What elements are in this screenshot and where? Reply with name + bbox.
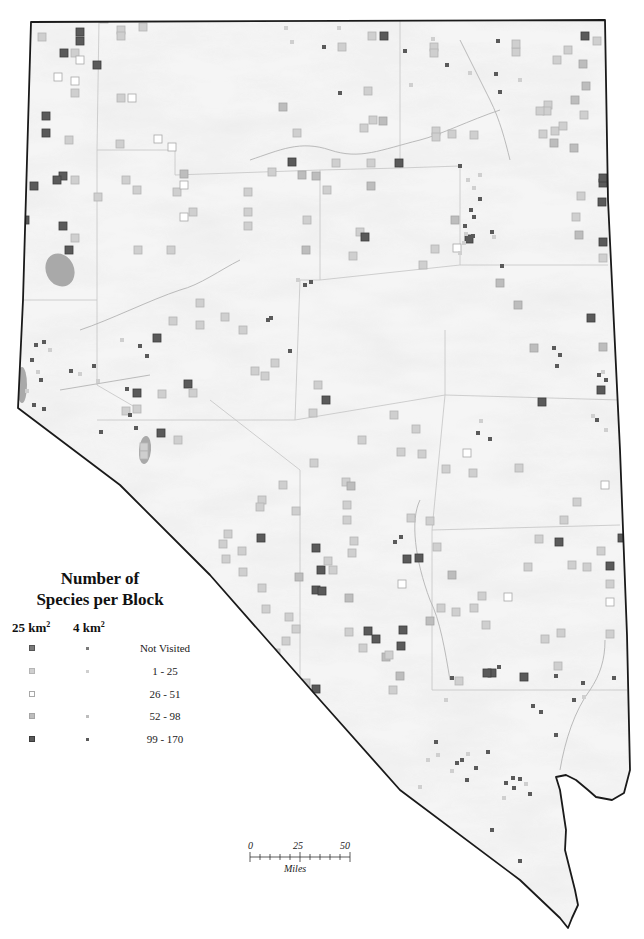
survey-block-25km	[332, 159, 340, 167]
survey-block-25km	[310, 459, 318, 467]
survey-block-25km	[116, 140, 124, 148]
legend-swatch-4km	[86, 647, 89, 650]
survey-block-25km	[133, 405, 141, 413]
survey-block-4km	[468, 71, 472, 75]
survey-block-4km	[30, 358, 34, 362]
survey-block-25km	[303, 216, 311, 224]
survey-block-25km	[258, 584, 266, 592]
survey-block-4km	[36, 370, 40, 374]
survey-block-25km	[117, 32, 125, 40]
survey-block-25km	[196, 321, 204, 329]
survey-block-4km	[322, 45, 326, 49]
survey-block-25km	[559, 122, 567, 130]
survey-block-4km	[572, 698, 576, 702]
legend-swatch-25km	[29, 645, 35, 651]
survey-block-4km	[444, 698, 448, 702]
survey-block-4km	[120, 338, 124, 342]
survey-block-25km	[426, 617, 434, 625]
survey-block-4km	[284, 26, 288, 30]
survey-block-4km	[266, 318, 270, 322]
survey-block-4km	[436, 753, 440, 757]
survey-block-25km	[575, 231, 583, 239]
survey-block-4km	[539, 710, 543, 714]
survey-block-4km	[431, 37, 435, 41]
survey-block-25km	[470, 604, 478, 612]
survey-block-4km	[488, 437, 492, 441]
survey-block-4km	[558, 353, 562, 357]
survey-block-25km	[222, 555, 230, 563]
survey-block-25km	[348, 549, 356, 557]
survey-block-25km	[134, 246, 142, 254]
survey-block-25km	[154, 135, 162, 143]
survey-block-25km	[469, 469, 477, 477]
survey-block-4km	[474, 766, 478, 770]
survey-block-25km	[298, 171, 306, 179]
survey-block-25km	[599, 238, 607, 246]
survey-block-25km	[530, 344, 538, 352]
survey-block-25km	[577, 192, 585, 200]
survey-block-4km	[597, 373, 601, 377]
survey-block-4km	[458, 164, 462, 168]
legend-title-line2: Species per Block	[0, 589, 200, 610]
survey-block-25km	[555, 538, 563, 546]
survey-block-25km	[415, 554, 423, 562]
survey-block-4km	[450, 769, 454, 773]
survey-block-4km	[478, 197, 482, 201]
survey-block-25km	[65, 136, 73, 144]
survey-block-25km	[174, 436, 182, 444]
legend-title: Number of Species per Block	[0, 568, 200, 610]
survey-block-25km	[140, 443, 148, 451]
survey-block-25km	[257, 534, 265, 542]
survey-block-25km	[76, 37, 84, 45]
survey-block-4km	[138, 344, 142, 348]
legend-label: 1 - 25	[110, 665, 220, 677]
survey-block-25km	[448, 571, 456, 579]
survey-block-25km	[267, 689, 275, 697]
survey-block-25km	[599, 254, 607, 262]
survey-block-4km	[476, 431, 480, 435]
survey-block-4km	[524, 782, 528, 786]
survey-block-25km	[364, 627, 372, 635]
survey-block-25km	[593, 37, 601, 45]
survey-block-4km	[465, 778, 469, 782]
survey-block-25km	[167, 246, 175, 254]
survey-block-4km	[531, 704, 535, 708]
nevada-map	[0, 0, 644, 939]
survey-block-25km	[368, 32, 376, 40]
survey-block-4km	[554, 733, 558, 737]
survey-block-4km	[418, 785, 422, 789]
survey-block-25km	[219, 540, 227, 548]
survey-block-4km	[466, 752, 470, 756]
survey-block-25km	[367, 182, 375, 190]
survey-block-4km	[463, 224, 467, 228]
survey-block-4km	[34, 343, 38, 347]
scale-label-50: 50	[340, 840, 350, 851]
survey-block-25km	[322, 396, 330, 404]
survey-block-25km	[288, 158, 296, 166]
survey-block-25km	[180, 181, 188, 189]
survey-block-25km	[442, 465, 450, 473]
survey-block-4km	[528, 792, 532, 796]
survey-block-25km	[292, 507, 300, 515]
survey-block-25km	[318, 587, 326, 595]
survey-block-4km	[134, 426, 138, 430]
survey-block-4km	[32, 403, 36, 407]
survey-block-4km	[25, 389, 29, 393]
survey-block-4km	[450, 676, 454, 680]
legend-swatch-4km	[86, 670, 89, 673]
survey-block-25km	[117, 94, 125, 102]
survey-block-25km	[292, 625, 300, 633]
survey-block-25km	[606, 598, 614, 606]
survey-block-25km	[419, 261, 427, 269]
survey-block-25km	[261, 372, 269, 380]
survey-block-25km	[385, 651, 393, 659]
survey-block-25km	[42, 129, 50, 137]
survey-block-4km	[490, 230, 494, 234]
legend-swatch-25km	[29, 736, 35, 742]
legend-header-25km-sup: 2	[46, 620, 50, 629]
survey-block-25km	[168, 143, 176, 151]
survey-block-25km	[483, 669, 491, 677]
survey-block-4km	[466, 178, 470, 182]
scale-label-0: 0	[248, 840, 253, 851]
survey-block-4km	[338, 91, 342, 95]
